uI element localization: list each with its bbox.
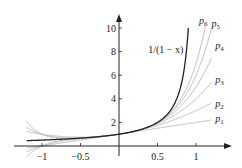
y-tick-label: 4	[111, 93, 116, 104]
label-function: 1/(1 − x)	[148, 44, 183, 56]
x-tick-label: 1	[194, 151, 199, 162]
y-tick-label: 8	[111, 46, 116, 57]
label-p1: p1	[214, 113, 224, 126]
y-tick-label: 10	[106, 23, 116, 34]
label-p6: p6	[198, 15, 208, 28]
chart: −1−0.50.51246810 1/(1 − x)p6p5p4p3p2p1	[0, 0, 242, 168]
y-axis-arrow-icon	[116, 14, 122, 22]
label-p2: p2	[214, 98, 224, 111]
label-p4: p4	[214, 40, 224, 53]
label-p3: p3	[214, 74, 224, 87]
x-tick-label: −0.5	[71, 151, 89, 162]
y-tick-label: 2	[111, 117, 116, 128]
labels-group: 1/(1 − x)p6p5p4p3p2p1	[148, 15, 224, 126]
label-p5: p5	[210, 18, 220, 31]
x-axis-arrow-icon	[224, 143, 232, 149]
x-tick-label: 0.5	[151, 151, 164, 162]
x-tick-label: −1	[37, 151, 48, 162]
y-tick-label: 6	[111, 70, 116, 81]
